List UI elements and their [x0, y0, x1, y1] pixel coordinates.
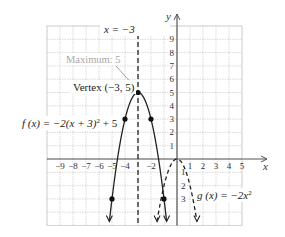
svg-text:−9: −9 [55, 161, 65, 171]
x-axis-label: x [262, 160, 268, 172]
parabola-graph: −9−8−7−6−5−4−212345987654321123 x y x = … [0, 0, 285, 237]
svg-text:7: 7 [170, 61, 175, 71]
vertex-label: Vertex (−3, 5) [73, 81, 135, 94]
svg-text:−8: −8 [68, 161, 78, 171]
svg-text:4: 4 [227, 161, 232, 171]
data-point [148, 117, 153, 122]
svg-text:6: 6 [170, 74, 175, 84]
svg-text:−6: −6 [94, 161, 104, 171]
svg-text:1: 1 [170, 141, 175, 151]
svg-text:5: 5 [170, 88, 175, 98]
data-point [135, 90, 140, 95]
svg-text:9: 9 [170, 34, 175, 44]
y-axis-label: y [165, 10, 171, 22]
asymptote-label: x = −3 [103, 23, 135, 35]
svg-text:−7: −7 [81, 161, 91, 171]
svg-text:5: 5 [240, 161, 245, 171]
data-point [161, 196, 166, 201]
g-function-label: g (x) = −2x2 [197, 189, 252, 202]
f-function-label: f (x) = −2(x + 3)2 + 5 [22, 117, 118, 130]
svg-text:2: 2 [170, 127, 175, 137]
svg-text:−2: −2 [146, 161, 156, 171]
svg-text:−4: −4 [120, 161, 130, 171]
data-point [122, 117, 127, 122]
svg-text:3: 3 [214, 161, 219, 171]
data-point [109, 196, 114, 201]
svg-text:1: 1 [188, 161, 193, 171]
svg-text:2: 2 [181, 181, 186, 191]
maximum-label: Maximum: 5 [66, 54, 121, 65]
svg-text:3: 3 [181, 194, 186, 204]
svg-text:2: 2 [201, 161, 206, 171]
svg-text:3: 3 [170, 114, 175, 124]
svg-text:8: 8 [170, 48, 175, 58]
svg-text:4: 4 [170, 101, 175, 111]
